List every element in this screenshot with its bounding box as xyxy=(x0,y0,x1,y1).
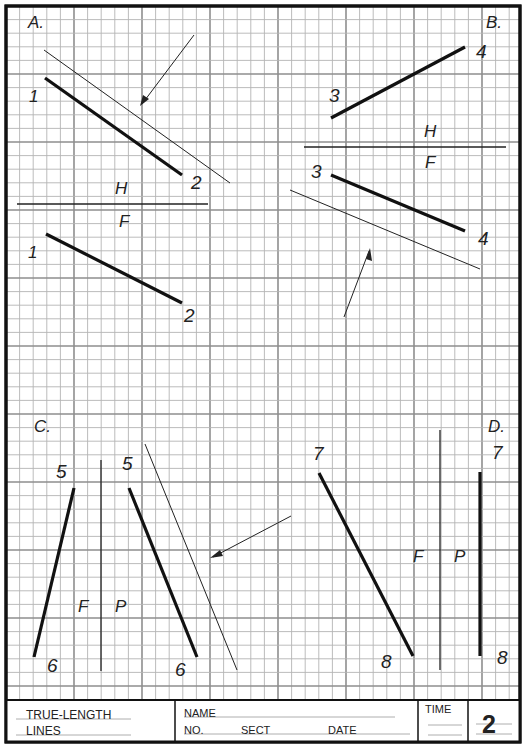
point-3-top-label: 3 xyxy=(329,85,340,106)
point-8-front-label: 8 xyxy=(381,651,392,672)
drawing-sheet: A. 1 2 H F 1 2 B. 4 3 H F 3 4 xyxy=(0,0,527,754)
fold-label-f-a: F xyxy=(119,212,131,231)
point-1-front-label: 1 xyxy=(28,243,37,262)
paper-background xyxy=(0,0,527,754)
problem-a-label: A. xyxy=(27,13,44,32)
fold-label-f-c: F xyxy=(78,597,90,616)
point-7-profile-label: 7 xyxy=(492,442,504,463)
problem-b-label: B. xyxy=(486,13,502,32)
point-6-profile-label: 6 xyxy=(175,659,186,680)
point-4-top-label: 4 xyxy=(476,41,487,62)
time-field-label: TIME xyxy=(425,703,451,715)
fold-label-p-d: P xyxy=(454,547,466,566)
sheet-number: 2 xyxy=(482,710,496,738)
point-3-front-label: 3 xyxy=(311,161,322,182)
date-field-label: DATE xyxy=(328,724,357,736)
point-6-front-label: 6 xyxy=(47,655,58,676)
problem-c-label: C. xyxy=(34,417,51,436)
no-field-label: NO. xyxy=(184,724,204,736)
point-7-front-label: 7 xyxy=(313,443,325,464)
point-8-profile-label: 8 xyxy=(497,647,508,668)
problem-d-label: D. xyxy=(488,417,505,436)
name-field-label: NAME xyxy=(184,707,216,719)
point-5-front-label: 5 xyxy=(56,461,67,482)
point-2-top-label: 2 xyxy=(190,172,202,193)
point-5-profile-label: 5 xyxy=(122,453,133,474)
fold-label-h-a: H xyxy=(115,179,128,198)
fold-label-f-d: F xyxy=(413,547,425,566)
title-line-2: LINES xyxy=(26,724,61,738)
sect-field-label: SECT xyxy=(241,724,271,736)
point-1-top-label: 1 xyxy=(29,87,38,106)
title-block: TRUE-LENGTH LINES NAME NO. SECT DATE TIM… xyxy=(6,700,520,742)
title-line-1: TRUE-LENGTH xyxy=(26,708,111,722)
fold-label-p-c: P xyxy=(115,597,127,616)
point-4-front-label: 4 xyxy=(478,228,489,249)
fold-label-f-b: F xyxy=(425,153,437,172)
point-2-front-label: 2 xyxy=(183,305,195,326)
fold-label-h-b: H xyxy=(424,122,437,141)
